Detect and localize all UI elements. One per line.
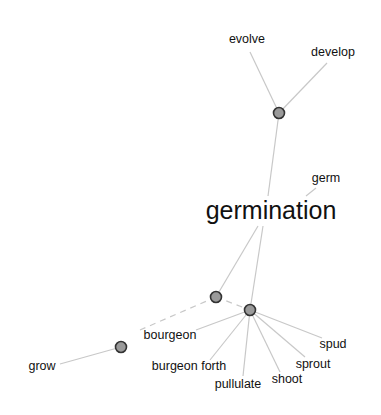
edge-develop-n_top	[279, 63, 327, 113]
edge-n_mid-pullulate	[243, 310, 250, 376]
edge-evolve-n_top	[250, 52, 279, 113]
label-pullulate[interactable]: pullulate	[215, 377, 262, 391]
graph-node-n-mid-left[interactable]	[211, 292, 222, 303]
label-sprout[interactable]: sprout	[296, 357, 331, 371]
nodes-layer	[116, 108, 285, 353]
labels-layer: germination evolve develop germ bourgeon…	[28, 32, 354, 391]
label-evolve[interactable]: evolve	[229, 32, 265, 46]
label-bourgeon[interactable]: bourgeon	[144, 328, 197, 342]
label-spud[interactable]: spud	[319, 337, 346, 351]
edge-germination-n_mid_left	[216, 226, 258, 297]
label-grow[interactable]: grow	[28, 359, 56, 373]
label-germination[interactable]: germination	[206, 196, 337, 224]
edge-n_mid_left-bourgeon	[140, 297, 216, 330]
graph-node-n-low-left[interactable]	[116, 342, 127, 353]
graph-node-n-mid[interactable]	[245, 305, 256, 316]
graph-node-n-top[interactable]	[274, 108, 285, 119]
label-germ[interactable]: germ	[312, 171, 340, 185]
label-shoot[interactable]: shoot	[272, 372, 303, 386]
word-graph: germination evolve develop germ bourgeon…	[0, 0, 381, 415]
label-develop[interactable]: develop	[311, 45, 355, 59]
edge-germination-n_mid	[250, 226, 263, 310]
edge-n_top-germination	[268, 113, 279, 196]
edge-germ-germination	[306, 188, 316, 196]
edge-n_mid-sprout	[250, 310, 305, 357]
edge-grow-n_low_left	[60, 347, 121, 364]
label-burgeon-forth[interactable]: burgeon forth	[152, 359, 226, 373]
edge-n_mid-spud	[250, 310, 322, 338]
